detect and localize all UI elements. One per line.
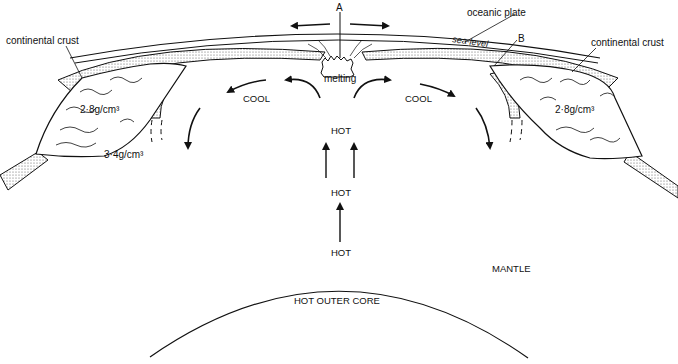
melting-zone — [308, 12, 372, 77]
label-continental-crust-right: continental crust — [591, 37, 664, 48]
label-mantle: MANTLE — [492, 263, 531, 274]
convection-arrows — [188, 79, 490, 242]
label-sea-level: sea-level — [452, 34, 490, 49]
label-density-right: 2·8g/cm³ — [555, 104, 595, 115]
label-cool-left: COOL — [243, 93, 270, 104]
label-continental-crust-left: continental crust — [6, 35, 79, 46]
label-hot-bottom: HOT — [331, 247, 351, 258]
label-outer-core: HOT OUTER CORE — [294, 295, 380, 306]
label-point-b: B — [518, 33, 525, 44]
label-density-mantle: 3·4g/cm³ — [104, 149, 144, 160]
diagram-canvas: A B oceanic plate sea-level continental … — [0, 0, 678, 364]
label-oceanic-plate: oceanic plate — [467, 7, 526, 18]
label-cool-right: COOL — [405, 93, 432, 104]
label-hot-middle: HOT — [331, 187, 351, 198]
label-melting: melting — [324, 73, 356, 84]
label-hot-top: HOT — [331, 125, 351, 136]
label-density-left: 2·8g/cm³ — [80, 104, 120, 115]
label-point-a: A — [336, 2, 343, 13]
